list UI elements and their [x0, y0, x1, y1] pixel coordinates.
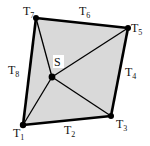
vertex-t3	[108, 113, 114, 119]
label-t5: T5	[131, 21, 142, 37]
label-t6: T6	[79, 4, 90, 20]
label-t1: T1	[13, 126, 24, 142]
label-t8: T8	[8, 63, 19, 79]
label-s: S	[54, 55, 61, 69]
vertex-t1	[20, 122, 26, 128]
label-t2: T2	[64, 123, 75, 139]
vertex-s	[49, 74, 56, 81]
label-t3: T3	[116, 117, 127, 133]
label-t7: T7	[23, 4, 34, 20]
label-t4: T4	[125, 65, 136, 81]
quadrilateral-diagram: S T7 T6 T5 T8 T4 T3 T2 T1	[0, 0, 150, 146]
